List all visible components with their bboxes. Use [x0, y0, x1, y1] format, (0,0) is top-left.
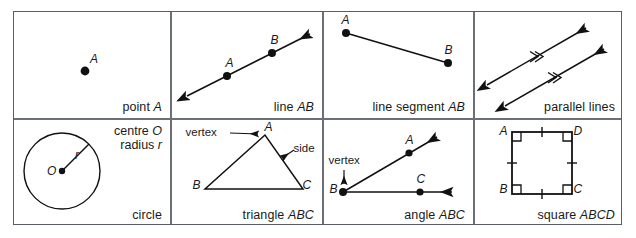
caption-triangle-symbol: ABC — [288, 208, 314, 222]
angle-vertex-dot — [339, 188, 347, 196]
angle-vertex-annotation: vertex — [329, 154, 360, 166]
caption-triangle: triangle ABC — [243, 208, 314, 222]
triangle-vertex-annotation: vertex — [186, 126, 217, 138]
caption-square: square ABCD — [537, 208, 615, 222]
line-ab-stroke — [187, 34, 310, 96]
angle-point-c-dot — [416, 188, 423, 195]
caption-line-segment-text: line segment — [372, 100, 448, 114]
line-point-a-dot — [223, 72, 231, 80]
caption-line: line AB — [274, 100, 314, 114]
square-point-a-label: A — [500, 124, 508, 138]
caption-circle: circle — [132, 208, 162, 222]
cell-angle: A B C vertex angle ABC — [324, 120, 474, 227]
circle-radius-note-symbol: r — [158, 138, 162, 152]
caption-point-symbol: A — [154, 100, 162, 114]
caption-line-symbol: AB — [297, 100, 314, 114]
caption-line-text: line — [274, 100, 297, 114]
triangle-point-b-label: B — [193, 178, 201, 192]
square-point-d-label: D — [574, 124, 583, 138]
caption-parallel-lines: parallel lines — [544, 100, 615, 114]
segment-point-b-dot — [444, 59, 452, 67]
triangle-point-c-label: C — [303, 178, 312, 192]
square-right-angle-marks — [512, 132, 572, 194]
circle-centre-dot — [59, 167, 65, 173]
caption-angle: angle ABC — [404, 208, 465, 222]
caption-angle-symbol: ABC — [439, 208, 465, 222]
caption-point-text: point — [122, 100, 153, 114]
circle-radius-note-text: radius — [120, 138, 158, 152]
cell-point: A point A — [14, 12, 170, 118]
circle-notes: centre O radius r — [114, 124, 162, 152]
side-pointer-line — [282, 150, 294, 158]
caption-triangle-text: triangle — [243, 208, 288, 222]
cell-square: A B C D square ABCD — [475, 120, 624, 227]
line-point-b-dot — [268, 49, 276, 57]
parallel-line-2-stroke — [505, 49, 604, 106]
cell-line-segment: A B line segment AB — [324, 12, 474, 118]
vertex-pointer-line — [230, 133, 258, 134]
segment-ab-stroke — [346, 33, 448, 63]
circle-centre-note-symbol: O — [152, 124, 162, 138]
caption-point: point A — [122, 100, 162, 114]
segment-point-a-label: A — [342, 13, 350, 27]
point-a-label: A — [90, 52, 98, 66]
caption-circle-text: circle — [132, 208, 162, 222]
point-a-dot — [81, 67, 90, 76]
circle-centre-note-text: centre — [114, 124, 152, 138]
cell-parallel-lines: parallel lines — [475, 12, 624, 118]
square-point-c-label: C — [574, 182, 583, 196]
angle-point-a-dot — [405, 149, 412, 156]
circle-radius-label: r — [75, 148, 79, 162]
caption-angle-text: angle — [404, 208, 439, 222]
caption-line-segment: line segment AB — [372, 100, 465, 114]
triangle-side-annotation: side — [294, 142, 315, 154]
geometry-terms-figure: A point A A B line AB — [0, 0, 636, 238]
caption-square-text: square — [537, 208, 579, 222]
caption-square-symbol: ABCD — [580, 208, 615, 222]
circle-radius-note: radius r — [114, 138, 162, 152]
line-point-b-label: B — [271, 33, 279, 47]
angle-point-c-label: C — [417, 172, 426, 186]
triangle-point-a-label: A — [265, 120, 273, 134]
square-side-ticks — [507, 127, 577, 199]
circle-centre-note: centre O — [114, 124, 162, 138]
segment-point-b-label: B — [445, 43, 453, 57]
table-grid: A point A A B line AB — [13, 11, 622, 225]
cell-line: A B line AB — [172, 12, 323, 118]
square-point-b-label: B — [500, 182, 508, 196]
angle-point-b-label: B — [330, 182, 338, 196]
angle-point-a-label: A — [406, 133, 414, 147]
caption-parallel-lines-text: parallel lines — [544, 100, 615, 114]
segment-point-a-dot — [342, 29, 350, 37]
triangle-outline — [205, 135, 303, 189]
parallel-line-1-stroke — [487, 28, 586, 85]
circle-centre-label: O — [47, 164, 56, 178]
line-point-a-label: A — [226, 56, 234, 70]
caption-line-segment-symbol: AB — [448, 100, 465, 114]
cell-circle: O r centre O radius r circle — [14, 120, 170, 227]
cell-triangle: A B C vertex side triangle ABC — [172, 120, 323, 227]
